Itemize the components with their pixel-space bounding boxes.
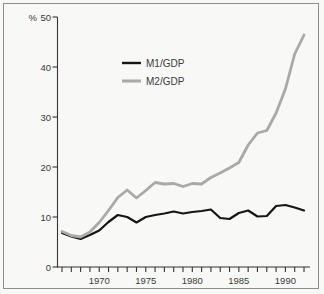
x-tick-label: 1970 [89, 275, 110, 286]
y-tick-label: 20 [40, 162, 51, 173]
line-chart: 01020304050 19701975198019851990 % M1/GD… [0, 0, 324, 294]
y-tick-label: 0 [46, 262, 51, 273]
x-tick-label: 1975 [135, 275, 156, 286]
x-tick-label: 1985 [228, 275, 249, 286]
y-tick-label: 50 [40, 12, 51, 23]
y-tick-label: 30 [40, 112, 51, 123]
legend-label-m2: M2/GDP [146, 76, 185, 87]
chart-background [0, 0, 324, 294]
legend-label-m1: M1/GDP [146, 58, 185, 69]
x-tick-label: 1980 [182, 275, 203, 286]
y-tick-label: 40 [40, 62, 51, 73]
chart-figure: 01020304050 19701975198019851990 % M1/GD… [0, 0, 324, 294]
y-axis-unit-label: % [29, 12, 38, 23]
y-tick-label: 10 [40, 212, 51, 223]
x-tick-label: 1990 [275, 275, 296, 286]
